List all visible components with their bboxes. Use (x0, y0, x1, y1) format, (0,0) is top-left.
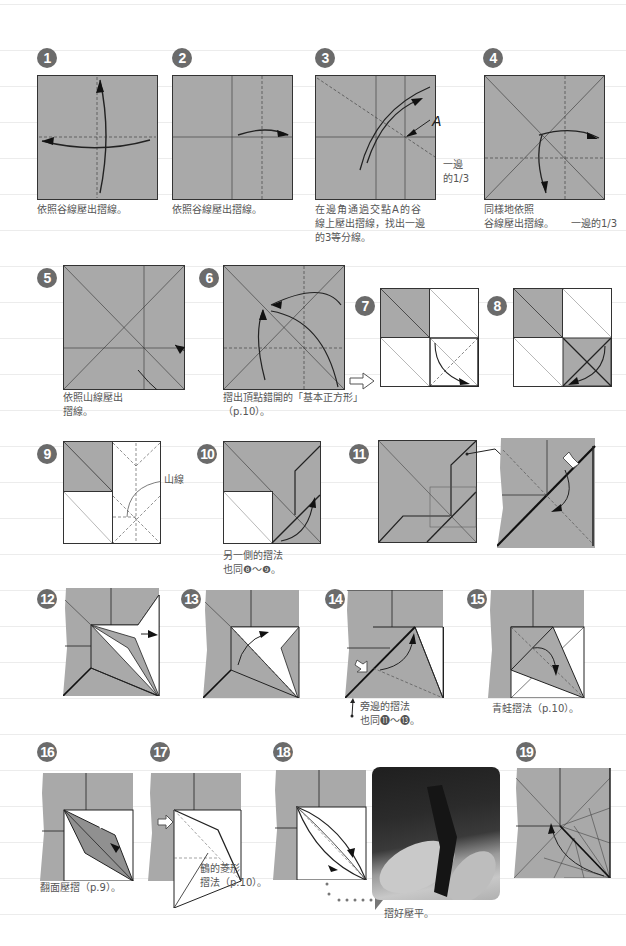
fold-diagram (315, 75, 436, 200)
step-number-badge: 7 (355, 296, 375, 316)
step-caption: 谷線壓出摺線。 (484, 217, 554, 231)
step-number-badge: 17 (150, 742, 170, 762)
step-number-badge: 19 (516, 742, 536, 762)
fold-diagram (223, 441, 321, 544)
folding-photo (372, 767, 500, 900)
fold-diagram (488, 590, 586, 698)
step-caption: 也同⓫～⓭。 (360, 714, 420, 728)
step-number-badge: 11 (349, 444, 369, 464)
third-of-side-note: 一邊的1/3 (571, 217, 617, 231)
step-caption: 另一側的摺法 (223, 549, 283, 563)
fold-diagram (378, 440, 477, 543)
step-number-badge: 3 (315, 48, 335, 68)
next-arrow-icon (349, 372, 375, 390)
fold-diagram (63, 265, 185, 390)
fold-diagram (40, 773, 135, 881)
pointer-line-icon (348, 698, 356, 718)
step-caption: 線上壓出摺線，找出一邊 (315, 217, 425, 231)
step-caption: 在邊角通過交點A的谷 (315, 203, 422, 217)
fold-diagram (203, 590, 301, 698)
step-caption: 依照谷線壓出摺線。 (37, 203, 127, 217)
step-number-badge: 5 (37, 268, 57, 288)
fold-diagram (273, 770, 368, 880)
step-caption: 的3等分線。 (315, 231, 371, 245)
step-caption: 同樣地依照 (484, 203, 534, 217)
step-number-badge: 1 (37, 48, 57, 68)
step-caption: 摺線。 (63, 405, 93, 419)
fold-diagram (484, 75, 605, 200)
step-number-badge: 8 (487, 296, 507, 316)
step-caption: 依照谷線壓出摺線。 (172, 203, 262, 217)
third-of-side-note: 的1/3 (443, 172, 469, 186)
step-number-badge: 10 (197, 444, 217, 464)
step-caption: 也同❽～❾。 (223, 563, 281, 577)
fold-diagram (513, 288, 612, 387)
fold-diagram (514, 768, 612, 878)
step-number-badge: 15 (467, 589, 487, 609)
fold-diagram (37, 75, 158, 200)
step-number-badge: 13 (181, 589, 201, 609)
fold-diagram (223, 265, 345, 390)
step-caption: 摺出頂點錯開的「基本正方形」 (223, 391, 363, 405)
step-number-badge: 12 (37, 589, 57, 609)
fold-diagram (63, 441, 161, 544)
fold-diagram (345, 590, 445, 698)
step-caption: （p.10）。 (223, 405, 270, 419)
step-caption: 旁邊的摺法 (360, 700, 410, 714)
step-caption: 摺好壓平。 (384, 907, 434, 921)
step-number-badge: 4 (483, 48, 503, 68)
step-caption: 依照山線壓出 (63, 391, 123, 405)
fold-diagram (172, 75, 293, 200)
step-number-badge: 6 (199, 268, 219, 288)
fold-diagram-detail (497, 438, 596, 548)
step-caption: 青蛙摺法（p.10）。 (492, 702, 579, 716)
step-number-badge: 14 (325, 589, 345, 609)
point-a-label: A (432, 114, 441, 128)
step-number-badge: 18 (273, 742, 293, 762)
step-caption: 摺法（p.10）。 (200, 876, 267, 890)
step-number-badge: 16 (37, 742, 57, 762)
mountain-fold-label: 山線 (164, 473, 184, 487)
step-number-badge: 9 (37, 444, 57, 464)
fold-diagram (63, 588, 161, 696)
step-number-badge: 2 (172, 48, 192, 68)
fold-diagram (380, 288, 479, 387)
third-of-side-note: 一邊 (443, 158, 463, 172)
step-caption: 翻面壓摺（p.9）。 (40, 881, 121, 895)
step-caption: 鶴的菱形 (200, 862, 240, 876)
